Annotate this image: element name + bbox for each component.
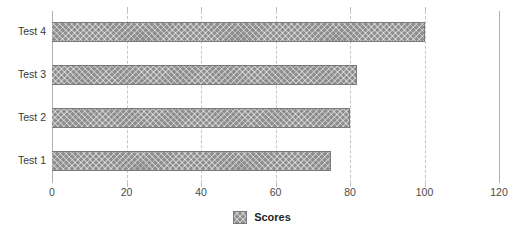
y-axis-label-test-4: Test 4 xyxy=(0,25,46,37)
legend-label-scores: Scores xyxy=(254,211,291,223)
bar-test-4[interactable] xyxy=(52,22,425,42)
y-axis-label-test-2: Test 2 xyxy=(0,111,46,123)
x-axis-tick-labels: 020406080100120 xyxy=(52,186,499,202)
y-axis-category-labels: Test 4Test 3Test 2Test 1 xyxy=(0,11,48,183)
bar-test-3[interactable] xyxy=(52,65,357,85)
bar-row xyxy=(52,11,499,54)
y-axis-label-test-3: Test 3 xyxy=(0,68,46,80)
bar-test-1[interactable] xyxy=(52,151,331,171)
bar-row xyxy=(52,54,499,97)
bar-row xyxy=(52,97,499,140)
legend-swatch-scores xyxy=(233,211,247,224)
horizontal-bar-chart: Test 4Test 3Test 2Test 1 020406080100120… xyxy=(0,0,524,238)
plot-area xyxy=(52,11,499,183)
bar-test-2[interactable] xyxy=(52,108,350,128)
x-tick-label-0: 0 xyxy=(49,186,55,198)
gridline-120 xyxy=(499,11,500,183)
x-tick-label-100: 100 xyxy=(416,186,434,198)
bar-row xyxy=(52,140,499,183)
x-tick-label-20: 20 xyxy=(121,186,133,198)
x-tick-label-60: 60 xyxy=(270,186,282,198)
y-axis-label-test-1: Test 1 xyxy=(0,154,46,166)
chart-legend: Scores xyxy=(0,207,524,227)
x-tick-label-120: 120 xyxy=(490,186,508,198)
x-tick-label-40: 40 xyxy=(195,186,207,198)
x-tick-label-80: 80 xyxy=(344,186,356,198)
